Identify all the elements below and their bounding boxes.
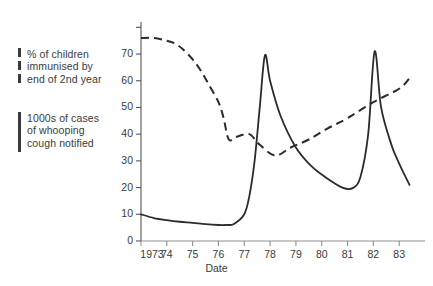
x-tick-label: 77 bbox=[232, 248, 256, 260]
y-tick-label: 10 bbox=[97, 207, 133, 219]
x-tick-label: 76 bbox=[206, 248, 230, 260]
x-tick-label: 80 bbox=[310, 248, 334, 260]
x-tick-label: 78 bbox=[258, 248, 282, 260]
x-axis-ticks bbox=[141, 241, 399, 246]
y-axis-ticks bbox=[136, 27, 141, 241]
x-tick-label: 82 bbox=[361, 248, 385, 260]
y-tick-label: 50 bbox=[97, 100, 133, 112]
y-tick-label: 30 bbox=[97, 154, 133, 166]
y-tick-label: 0 bbox=[97, 234, 133, 246]
x-tick-label: 79 bbox=[284, 248, 308, 260]
x-tick-label: 81 bbox=[336, 248, 360, 260]
y-tick-label: 60 bbox=[97, 74, 133, 86]
x-axis-label: Date bbox=[0, 262, 433, 274]
x-tick-label: 74 bbox=[155, 248, 179, 260]
legend-item-cases: 1000s of cases of whooping cough notifie… bbox=[18, 112, 99, 152]
y-tick-label: 70 bbox=[97, 47, 133, 59]
dashed-line-swatch-icon bbox=[18, 48, 21, 83]
series-line-cases bbox=[141, 51, 410, 225]
whooping-cough-immunisation-chart: 010203040506070197374757677787980818283 … bbox=[0, 0, 433, 286]
legend-label-immunisation: % of children immunised by end of 2nd ye… bbox=[27, 48, 101, 85]
solid-line-swatch-icon bbox=[18, 112, 21, 152]
x-tick-label: 83 bbox=[387, 248, 411, 260]
legend-label-cases: 1000s of cases of whooping cough notifie… bbox=[27, 112, 99, 149]
legend-item-immunisation: % of children immunised by end of 2nd ye… bbox=[18, 48, 101, 85]
y-tick-label: 20 bbox=[97, 181, 133, 193]
y-tick-label: 40 bbox=[97, 127, 133, 139]
x-tick-label: 75 bbox=[181, 248, 205, 260]
